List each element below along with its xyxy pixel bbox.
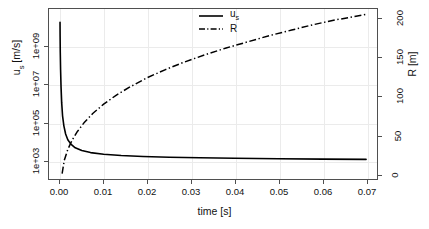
x-tick-label: 0.03 (182, 186, 201, 197)
legend-key-dashdot-icon (198, 24, 224, 34)
legend-item-us: us (198, 9, 239, 22)
y-right-tick-label: 0 (389, 173, 400, 178)
x-tick-label: 0.05 (270, 186, 289, 197)
series-line-us (60, 22, 366, 159)
series-line-r (62, 14, 366, 173)
y-right-tick-mark (378, 57, 382, 58)
y-left-title-unit: [m/s] (10, 40, 22, 66)
y-right-tick-mark (378, 96, 382, 97)
y-right-tick-label: 200 (394, 10, 405, 26)
x-tick-mark (191, 180, 192, 184)
y-left-tick-mark (44, 84, 48, 85)
legend-label-r: R (230, 24, 237, 34)
x-tick-mark (103, 180, 104, 184)
legend-key-solid-icon (198, 11, 224, 21)
legend: us R (198, 9, 239, 35)
y-left-tick-label: 1e+07 (30, 71, 41, 98)
legend-item-r: R (198, 22, 239, 35)
y-left-tick-mark (44, 46, 48, 47)
x-tick-mark (59, 180, 60, 184)
x-tick-mark (367, 180, 368, 184)
x-tick-mark (235, 180, 236, 184)
y-left-tick-label: 1e+05 (30, 109, 41, 136)
y-right-tick-label: 50 (392, 131, 403, 142)
y-left-tick-label: 1e+03 (30, 148, 41, 175)
y-left-tick-mark (44, 161, 48, 162)
x-tick-label: 0.07 (358, 186, 377, 197)
x-tick-mark (279, 180, 280, 184)
y-right-tick-mark (378, 136, 382, 137)
y-left-tick-label: 1e+09 (30, 33, 41, 60)
y-right-tick-mark (378, 18, 382, 19)
x-tick-label: 0.00 (50, 186, 69, 197)
y-right-tick-mark (378, 175, 382, 176)
chart-figure: 0.000.010.020.030.040.050.060.07 1e+031e… (0, 0, 429, 229)
x-tick-label: 0.06 (314, 186, 333, 197)
y-right-tick-label: 150 (394, 49, 405, 65)
y-right-tick-label: 100 (394, 88, 405, 104)
x-tick-label: 0.02 (138, 186, 157, 197)
y-axis-left-title: us [m/s] (10, 8, 25, 108)
x-tick-label: 0.04 (226, 186, 245, 197)
x-tick-mark (147, 180, 148, 184)
y-axis-right-title: R [m] (406, 24, 418, 104)
y-left-title-sub: s (17, 66, 26, 70)
x-axis-title: time [s] (0, 205, 429, 217)
y-left-tick-mark (44, 123, 48, 124)
x-tick-label: 0.01 (94, 186, 113, 197)
x-tick-mark (323, 180, 324, 184)
y-left-title-main: u (10, 69, 22, 75)
legend-label-us: us (230, 9, 239, 21)
